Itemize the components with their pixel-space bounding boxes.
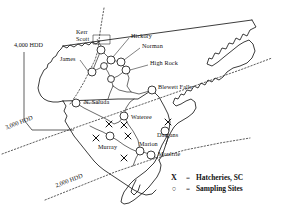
site-marker-moultrie xyxy=(147,151,155,159)
legend-label-hatcheries: Hatcheries, SC xyxy=(196,173,243,182)
legend-x-icon: X xyxy=(168,173,180,182)
site-label-norman: Norman xyxy=(142,42,163,49)
site-label-marion: Marion xyxy=(139,140,158,147)
hatchery-x-2 xyxy=(121,122,127,128)
site-label-blewett-falls: Blewett Falls xyxy=(158,83,192,90)
site-marker-norman xyxy=(117,58,125,66)
site-label-kerr-scott: Kerr Scott xyxy=(76,29,89,42)
hatchery-x-3 xyxy=(125,133,131,139)
site-marker-n-saluda xyxy=(72,99,80,107)
site-marker-murray xyxy=(106,132,114,140)
site-marker-marion xyxy=(136,147,144,155)
site-label-wateree: Wateree xyxy=(131,113,152,120)
legend-circle-icon: ○ xyxy=(168,184,180,193)
site-label-hickory: Hickory xyxy=(131,32,152,39)
hatchery-x-6 xyxy=(93,135,99,141)
legend-equals-2: = xyxy=(180,185,196,193)
map-legend: X = Hatcheries, SC ○ = Sampling Sites xyxy=(168,172,276,194)
legend-equals-1: = xyxy=(180,174,196,182)
site-label-scott: Scott xyxy=(76,36,89,43)
site-label-moultrie: Moultrie xyxy=(158,150,180,157)
legend-row-hatcheries: X = Hatcheries, SC xyxy=(168,172,276,183)
site-marker-unnamed-a xyxy=(101,63,108,70)
site-marker-james xyxy=(88,68,96,76)
site-marker-hickory xyxy=(107,56,115,64)
hatchery-x-1 xyxy=(106,121,112,127)
site-label-high-rock: High Rock xyxy=(150,59,178,66)
site-marker-kerr-scott xyxy=(97,46,105,54)
site-label-murray: Murray xyxy=(98,143,117,150)
site-marker-wateree xyxy=(120,112,128,120)
legend-label-sampling-sites: Sampling Sites xyxy=(196,184,243,193)
site-label-james: James xyxy=(60,55,76,62)
site-label-n-saluda: N. Saluda xyxy=(84,98,109,105)
hatchery-x-4 xyxy=(121,155,127,161)
site-marker-high-rock xyxy=(122,66,130,74)
hdd-label-4000: 4,000 HDD xyxy=(14,41,43,48)
hdd-sampling-site-map: Kerr Scott Hickory Norman High Rock Jame… xyxy=(0,0,281,213)
river-network xyxy=(76,50,168,166)
site-marker-blewett-falls xyxy=(148,86,156,94)
legend-row-sampling-sites: ○ = Sampling Sites xyxy=(168,183,276,194)
site-label-dargans: Dargans xyxy=(157,131,178,138)
north-carolina-outline xyxy=(38,20,256,160)
site-marker-unnamed-b xyxy=(108,76,115,83)
